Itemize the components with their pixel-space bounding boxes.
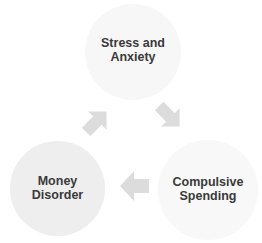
node-stress-and-anxiety: Stress and Anxiety (85, 4, 181, 100)
node-label-line: Money (38, 174, 78, 188)
node-label: Money Disorder (32, 174, 83, 202)
node-label-line: Anxiety (110, 50, 155, 64)
node-money-disorder: Money Disorder (10, 141, 105, 236)
arrow-up-right-icon (78, 104, 114, 140)
arrow-down-right-icon (151, 98, 187, 134)
node-label-line: Stress and (101, 36, 165, 50)
node-label-line: Spending (180, 189, 237, 203)
arrow-left-icon (118, 168, 152, 204)
node-label: Stress and Anxiety (101, 36, 165, 64)
node-label-line: Disorder (32, 188, 83, 202)
node-label: Compulsive Spending (173, 175, 244, 203)
node-compulsive-spending: Compulsive Spending (158, 140, 258, 240)
node-label-line: Compulsive (173, 175, 244, 189)
